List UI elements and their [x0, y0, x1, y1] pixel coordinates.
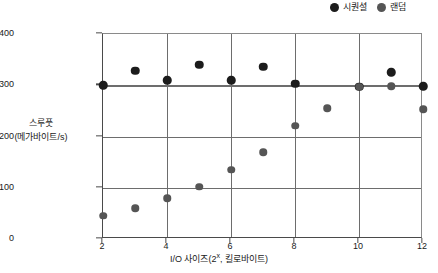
legend-entry-random[interactable]: 랜덤: [377, 2, 406, 13]
data-point: [99, 81, 108, 90]
gridline-x-4: [167, 34, 168, 237]
gridline-y-200: [103, 137, 421, 138]
x-tick-mark-2: [101, 238, 102, 243]
data-point: [131, 205, 139, 213]
plot-area: [102, 33, 422, 238]
chart-figure: 시퀀셜 랜덤 스루풋 (메가바이트/s) 0100200300400 24681…: [0, 0, 438, 273]
gridline-x-6: [231, 34, 232, 237]
data-point: [259, 63, 268, 72]
x-tick-mark-8: [293, 238, 294, 243]
gridline-y-300: [103, 85, 421, 86]
data-point: [291, 122, 299, 130]
data-point: [227, 166, 235, 174]
y-tick-label-400: 400: [0, 28, 14, 38]
data-point: [227, 76, 236, 85]
data-point: [387, 83, 395, 91]
legend-entry-sequential[interactable]: 시퀀셜: [330, 2, 367, 13]
gridline-x-10: [359, 34, 360, 237]
gridline-x-8: [295, 34, 296, 237]
data-point: [419, 82, 428, 91]
y-tick-label-0: 0: [9, 233, 14, 243]
data-point: [355, 83, 363, 91]
x-tick-mark-10: [357, 238, 358, 243]
y-tick-label-300: 300: [0, 79, 14, 89]
legend-marker-sequential: [330, 3, 339, 12]
data-point: [99, 212, 107, 220]
data-point: [259, 149, 267, 157]
legend-label-sequential: 시퀀셜: [343, 2, 367, 13]
data-point: [419, 106, 427, 114]
x-tick-mark-6: [229, 238, 230, 243]
x-tick-mark-12: [421, 238, 422, 243]
y-axis-title-line1: 스루풋: [2, 116, 80, 130]
x-axis-title-tail: , 킬로바이트): [220, 254, 268, 264]
x-tick-mark-4: [165, 238, 166, 243]
data-point: [163, 76, 172, 85]
gridline-y-100: [103, 188, 421, 189]
legend-label-random: 랜덤: [390, 2, 406, 13]
y-tick-label-200: 200: [0, 131, 14, 141]
legend-marker-random: [377, 3, 386, 12]
data-point: [195, 61, 204, 70]
data-point: [163, 194, 171, 202]
data-point: [195, 183, 203, 191]
y-tick-label-100: 100: [0, 182, 14, 192]
x-axis-title: I/O 사이즈(2x, 킬로바이트): [0, 252, 438, 265]
data-point: [131, 67, 140, 76]
chart-legend: 시퀀셜 랜덤: [330, 2, 406, 13]
data-point: [323, 105, 331, 113]
data-point: [387, 68, 396, 77]
data-point: [291, 79, 300, 88]
x-axis-title-base: I/O 사이즈(2: [170, 254, 217, 264]
